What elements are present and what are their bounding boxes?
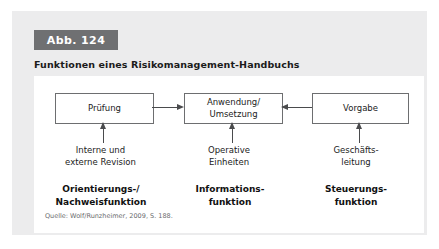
- function-label-information: Informations- funktion: [184, 183, 276, 208]
- arrow-revision-to-pruefung-icon: [100, 122, 107, 143]
- figure-title: Funktionen eines Risikomanagement-Handbu…: [34, 59, 300, 70]
- node-box-anwendung: Anwendung/ Umsetzung: [184, 93, 283, 124]
- arrow-einheiten-to-anwendung-icon: [229, 122, 236, 143]
- node-box-vorgabe: Vorgabe: [312, 93, 409, 124]
- figure-number-badge: Abb. 124: [34, 30, 118, 50]
- figure-card: Abb. 124 Funktionen eines Risikomanageme…: [12, 11, 427, 235]
- node-box-pruefung: Prüfung: [55, 93, 154, 124]
- arrow-leitung-to-vorgabe-icon: [356, 122, 363, 143]
- source-label-geschaeftsleitung: Geschäfts- leitung: [312, 145, 400, 169]
- arrow-vorgabe-to-anwendung-icon: [281, 104, 312, 111]
- source-label-operative-einheiten: Operative Einheiten: [184, 145, 274, 169]
- source-citation: Quelle: Wolf/Runzheimer, 2009, S. 188.: [45, 212, 173, 220]
- figure-number-label: Abb. 124: [47, 34, 105, 47]
- function-label-steuerung: Steuerungs- funktion: [310, 183, 402, 208]
- arrow-pruefung-to-anwendung-icon: [152, 104, 184, 111]
- source-label-revision: Interne und externe Revision: [48, 145, 153, 169]
- function-label-orientierung: Orientierungs-/ Nachweisfunktion: [45, 183, 157, 208]
